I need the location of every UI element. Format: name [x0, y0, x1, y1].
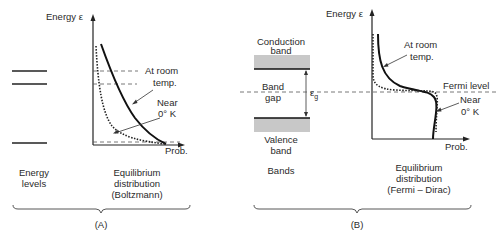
room-temp-label-b-2: temp. — [410, 51, 434, 62]
room-temp-pointer-b — [385, 55, 407, 66]
near-zero-label-a-1: Near — [157, 97, 178, 108]
valence-band — [254, 118, 310, 132]
brace-b — [254, 205, 471, 213]
panel-b: Conduction band Band gap εg Valence band… — [240, 8, 499, 230]
fermi-dirac-caption-3: (Fermi – Dirac) — [387, 184, 450, 195]
arrowhead — [304, 112, 308, 117]
energy-levels-caption-1: Energy — [19, 167, 49, 178]
boltzmann-caption-2: distribution — [114, 178, 160, 189]
panel-label-b: (B) — [351, 219, 364, 230]
arrowhead — [304, 70, 308, 75]
x-axis-label-b: Prob. — [445, 141, 468, 152]
y-axis-arrow-a — [91, 14, 96, 21]
near-zero-label-b-2: 0° K — [461, 106, 480, 117]
room-temp-pointer-a — [134, 90, 153, 103]
panel-label-a: (A) — [95, 219, 108, 230]
room-temp-label-a-2: temp. — [153, 77, 177, 88]
arrowhead — [383, 63, 389, 67]
near-zero-label-a-2: 0° K — [158, 108, 177, 119]
fermi-dirac-caption-2: distribution — [396, 173, 442, 184]
near-zero-pointer-b — [438, 103, 459, 111]
energy-levels-caption-2: levels — [22, 178, 47, 189]
bands-caption: Bands — [268, 165, 295, 176]
valence-band-label-2: band — [270, 145, 291, 156]
near-zero-label-b-1: Near — [460, 94, 481, 105]
band-gap-label-1: Band — [262, 81, 284, 92]
gap-symbol: εg — [310, 87, 318, 101]
room-temp-label-a-1: At room — [145, 65, 178, 76]
boltzmann-caption-3: (Boltzmann) — [111, 189, 162, 200]
arrowhead — [132, 100, 138, 105]
x-axis-label-a: Prob. — [165, 145, 188, 156]
y-axis-label-b: Energy ε — [326, 8, 364, 19]
boltzmann-caption-1: Equilibrium — [114, 167, 161, 178]
fermi-level-label: Fermi level — [443, 80, 489, 91]
panel-a: Energy ε Prob. At room temp. Near 0° K E… — [12, 11, 190, 230]
conduction-band-label-2: band — [270, 45, 291, 56]
fermi-dirac-caption-1: Equilibrium — [396, 162, 443, 173]
room-temp-label-b-1: At room — [404, 39, 437, 50]
conduction-band — [254, 55, 310, 69]
brace-a — [13, 205, 190, 213]
y-axis-arrow-b — [370, 9, 375, 16]
y-axis-label-a: Energy ε — [46, 11, 84, 22]
diagram-canvas: Energy ε Prob. At room temp. Near 0° K E… — [0, 0, 499, 236]
room-temp-curve-a — [101, 44, 166, 144]
band-gap-label-2: gap — [265, 92, 281, 103]
valence-band-label-1: Valence — [264, 134, 298, 145]
